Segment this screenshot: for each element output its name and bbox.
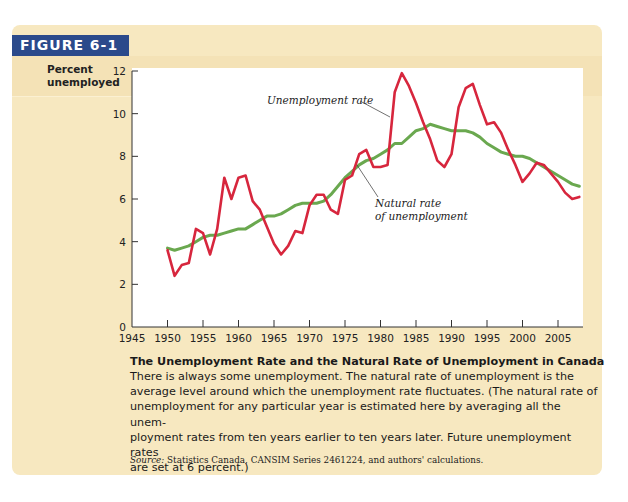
y-tick-label: 4 [119,236,126,248]
source-label: Source: [130,455,164,465]
natural-rate-annotation-line1: Natural rate [374,197,441,209]
x-tick-label: 1970 [296,332,323,344]
y-tick-label: 8 [119,150,126,162]
axes: 0246810121945195019551960196519701975198… [113,65,583,344]
natural-rate-line [168,124,580,250]
y-tick-label: 6 [119,193,126,205]
x-tick-label: 1950 [154,332,181,344]
y-tick-label: 10 [113,108,126,120]
x-tick-label: 1995 [474,332,501,344]
natural-rate-leader-line [357,165,378,197]
x-tick-label: 1965 [261,332,288,344]
x-tick-label: 1990 [438,332,465,344]
source-text: Statistics Canada, CANSIM Series 2461224… [164,455,483,465]
x-tick-label: 1985 [403,332,430,344]
annotations: Unemployment rate Natural rate of unempl… [267,94,469,222]
y-tick-label: 2 [119,278,126,290]
y-tick-label: 12 [113,65,126,77]
caption-line: average level around which the unemploym… [130,384,600,399]
x-tick-label: 1945 [119,332,146,344]
caption-title: The Unemployment Rate and the Natural Ra… [130,354,600,369]
natural-rate-annotation-line2: of unemployment [375,210,469,222]
unemployment-rate-line [168,73,580,276]
unemployment-rate-annotation: Unemployment rate [267,94,373,106]
caption-line: unemployment for any particular year is … [130,399,600,429]
unemployment-leader-line [360,101,390,117]
source-note: Source: Statistics Canada, CANSIM Series… [130,455,483,465]
x-tick-label: 2005 [545,332,572,344]
x-tick-label: 1955 [190,332,217,344]
caption-line: There is always some unemployment. The n… [130,369,600,384]
x-tick-label: 1960 [225,332,252,344]
x-tick-label: 1980 [367,332,394,344]
series [168,73,580,276]
x-tick-label: 1975 [332,332,359,344]
x-tick-label: 2000 [509,332,536,344]
